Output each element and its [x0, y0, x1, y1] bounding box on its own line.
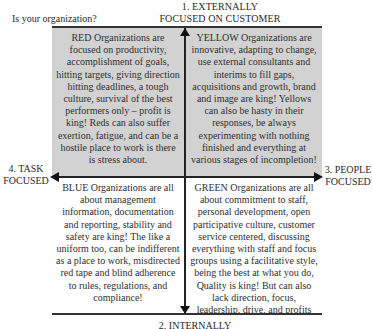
quadrant-red: RED Organizations are focused on product…: [56, 32, 180, 166]
axis-label-right-line2: FOCUSED: [323, 176, 372, 188]
arrow-left-icon: [50, 172, 59, 182]
arrow-up-icon: [180, 28, 190, 36]
arrow-right-icon: [314, 172, 323, 182]
quadrant-green: GREEN Organizations are all about commit…: [190, 182, 318, 316]
quadrant-yellow: YELLOW Organizations are innovative, ada…: [190, 32, 318, 166]
vertical-axis: [184, 28, 186, 313]
axis-label-left-line1: 4. TASK: [0, 163, 52, 175]
axis-label-right-line1: 3. PEOPLE: [323, 164, 372, 176]
question-label: Is your organization?: [12, 13, 97, 24]
axis-label-top-line2: FOCUSED ON CUSTOMER: [120, 13, 320, 25]
axis-label-externally-focused: 1. EXTERNALLY FOCUSED ON CUSTOMER: [120, 1, 320, 25]
arrow-down-icon: [180, 306, 190, 314]
axis-label-people-focused: 3. PEOPLE FOCUSED: [323, 164, 372, 188]
axis-label-task-focused: 4. TASK FOCUSED: [0, 163, 52, 187]
axis-label-top-line1: 1. EXTERNALLY: [120, 1, 320, 13]
quadrant-diagram: RED Organizations are focused on product…: [52, 26, 322, 315]
axis-label-internally: 2. INTERNALLY: [120, 320, 270, 329]
axis-label-left-line2: FOCUSED: [0, 175, 52, 187]
horizontal-axis: [52, 176, 320, 178]
quadrant-blue: BLUE Organizations are all about managem…: [56, 182, 180, 304]
